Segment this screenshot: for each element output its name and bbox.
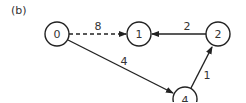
node-label-1: 1 bbox=[136, 28, 143, 41]
node-label-4: 4 bbox=[182, 94, 189, 103]
node-label-0: 0 bbox=[54, 28, 61, 41]
edge-weight-0-4: 4 bbox=[121, 55, 128, 68]
node-0: 0 bbox=[45, 22, 69, 46]
node-1: 1 bbox=[127, 22, 151, 46]
edge-weight-2-1: 2 bbox=[184, 20, 191, 33]
edge-weight-0-1: 8 bbox=[95, 20, 102, 33]
edge-0-to-1: 8 bbox=[69, 20, 126, 34]
node-2: 2 bbox=[206, 22, 230, 46]
node-4: 4 bbox=[173, 87, 197, 102]
edge-0-to-4: 4 bbox=[68, 40, 173, 93]
edge-4-to-2: 1 bbox=[191, 47, 212, 88]
edge-weight-4-2: 1 bbox=[204, 69, 211, 82]
edge-2-to-1: 2 bbox=[152, 20, 206, 34]
graph-diagram: 8 2 4 1 0 1 2 4 bbox=[0, 0, 246, 102]
node-label-2: 2 bbox=[215, 28, 222, 41]
